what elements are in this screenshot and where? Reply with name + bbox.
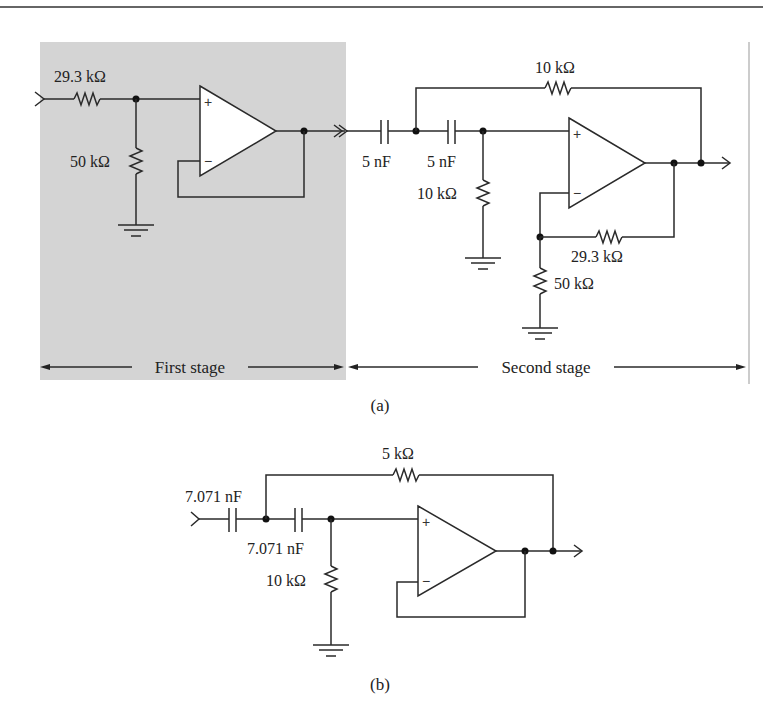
label-10k-feedback: 10 kΩ xyxy=(535,59,575,76)
input-terminal-b xyxy=(191,512,199,526)
resistor-10k-shunt-b xyxy=(325,566,337,592)
ground-icon xyxy=(465,258,501,269)
capacitor-5nf-1 xyxy=(381,120,388,144)
opamp-plus-symbol: + xyxy=(204,94,212,110)
label-50k-first: 50 kΩ xyxy=(70,153,110,170)
resistor-10k-shunt xyxy=(477,180,489,206)
ground-icon xyxy=(522,328,558,339)
label-5k-feedback: 5 kΩ xyxy=(382,445,414,462)
label-10k-shunt: 10 kΩ xyxy=(417,185,457,202)
resistor-5k-feedback xyxy=(393,469,419,481)
first-stage-label: First stage xyxy=(155,358,225,377)
opamp-plus-symbol: + xyxy=(573,126,581,142)
circuit-figure: + − + − xyxy=(0,0,763,707)
label-7071-2: 7.071 nF xyxy=(247,540,304,557)
ground-icon xyxy=(313,645,349,656)
label-5nf-2: 5 nF xyxy=(427,153,456,170)
opamp-minus-symbol: − xyxy=(204,153,212,169)
caption-a: (a) xyxy=(371,396,390,415)
capacitor-7071-2 xyxy=(295,508,302,532)
resistor-10k-feedback xyxy=(545,82,571,94)
capacitor-7071-1 xyxy=(229,508,236,532)
opamp-plus-symbol: + xyxy=(422,514,430,530)
label-10k-shunt-b: 10 kΩ xyxy=(266,572,306,589)
label-29k-first: 29.3 kΩ xyxy=(54,68,106,85)
label-7071-1: 7.071 nF xyxy=(185,488,242,505)
capacitor-5nf-2 xyxy=(448,120,455,144)
first-stage-shade xyxy=(40,42,346,380)
second-stage-label: Second stage xyxy=(501,358,590,377)
resistor-29k-second xyxy=(596,231,622,243)
caption-b: (b) xyxy=(370,675,390,694)
opamp-minus-symbol: − xyxy=(573,185,581,201)
label-50k-second: 50 kΩ xyxy=(554,275,594,292)
resistor-50k-second xyxy=(534,268,546,294)
label-29k-second: 29.3 kΩ xyxy=(571,248,623,265)
label-5nf-1: 5 nF xyxy=(362,153,391,170)
opamp-minus-symbol: − xyxy=(422,573,430,589)
